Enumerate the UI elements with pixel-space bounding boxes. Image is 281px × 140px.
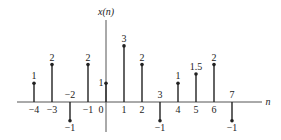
tick-label: 1 bbox=[122, 104, 127, 115]
tick-label: −2 bbox=[65, 89, 76, 100]
stem-marker bbox=[122, 44, 126, 48]
stem-marker bbox=[32, 82, 36, 86]
stem-n1: 3 bbox=[122, 33, 127, 102]
stems: 12−12132−111.52−1 bbox=[32, 33, 238, 133]
stem-n2: 2 bbox=[140, 52, 145, 102]
tick-label: 6 bbox=[212, 104, 217, 115]
tick-label: 5 bbox=[194, 104, 199, 115]
stem-marker bbox=[104, 82, 108, 86]
tick-label: 7 bbox=[230, 89, 235, 100]
stem-n6: 2 bbox=[212, 52, 217, 102]
stem-n-2: −1 bbox=[65, 102, 76, 133]
value-label: 2 bbox=[212, 52, 217, 63]
stem-marker bbox=[194, 72, 198, 76]
value-label: 2 bbox=[140, 52, 145, 63]
stem-marker bbox=[212, 63, 216, 67]
stem-n-1: 2 bbox=[86, 52, 91, 102]
stem-plot: x(n) n 12−12132−111.52−1 −4−3−2−10123456… bbox=[0, 0, 281, 140]
stem-n-3: 2 bbox=[50, 52, 55, 102]
tick-label: 4 bbox=[176, 104, 181, 115]
stem-n-4: 1 bbox=[32, 70, 37, 102]
value-label: −1 bbox=[65, 122, 76, 133]
value-label: −1 bbox=[227, 122, 238, 133]
tick-label: 2 bbox=[140, 104, 145, 115]
stem-n5: 1.5 bbox=[190, 61, 203, 102]
value-label: 1.5 bbox=[190, 61, 203, 72]
tick-label: −3 bbox=[47, 104, 58, 115]
stem-n4: 1 bbox=[176, 70, 181, 102]
tick-label: 3 bbox=[158, 89, 163, 100]
value-label: −1 bbox=[155, 122, 166, 133]
value-label: 2 bbox=[86, 52, 91, 63]
y-axis-label: x(n) bbox=[97, 6, 115, 18]
x-axis-label: n bbox=[266, 96, 271, 107]
tick-label: −4 bbox=[29, 104, 40, 115]
value-label: 2 bbox=[50, 52, 55, 63]
stem-marker bbox=[176, 82, 180, 86]
value-label: 3 bbox=[122, 33, 127, 44]
tick-label: −1 bbox=[83, 104, 94, 115]
tick-label: 0 bbox=[99, 104, 104, 115]
value-label: 1 bbox=[176, 70, 181, 81]
stem-marker bbox=[86, 63, 90, 67]
value-label: 1 bbox=[32, 70, 37, 81]
stem-marker bbox=[140, 63, 144, 67]
stem-n3: −1 bbox=[155, 102, 166, 133]
stem-marker bbox=[50, 63, 54, 67]
stem-n7: −1 bbox=[227, 102, 238, 133]
value-label: 1 bbox=[99, 77, 104, 88]
